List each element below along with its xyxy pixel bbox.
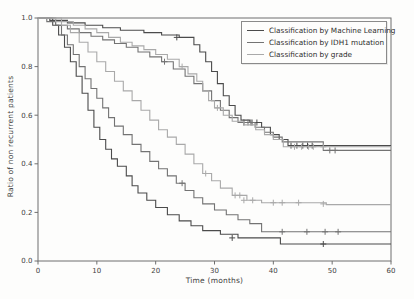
series-grade-upper-censor-mark (214, 105, 220, 111)
x-tick-label: 20 (151, 267, 160, 275)
x-tick-label: 10 (92, 267, 101, 275)
series-idh1-lower-censor-mark (335, 229, 341, 235)
x-axis-label: Time (months) (38, 276, 391, 285)
legend-label: Classification by Machine Learning (269, 26, 395, 35)
y-tick-label: 0.6 (21, 112, 33, 120)
x-tick-label: 50 (328, 267, 337, 275)
legend-item-grade: Classification by grade (247, 50, 380, 59)
series-idh1-upper-censor-mark (162, 59, 168, 65)
series-grade-lower-censor-mark (203, 171, 209, 177)
series-idh1-lower-censor-mark (304, 229, 310, 235)
x-tick-label: 30 (210, 267, 219, 275)
y-tick-label: 0.4 (21, 160, 33, 168)
y-tick-label: 0.0 (21, 257, 32, 265)
km-survival-figure: 01020304050600.00.20.40.60.81.0 Ratio of… (0, 0, 414, 299)
legend-line-swatch (247, 54, 264, 55)
series-idh1-lower-censor-mark (279, 229, 285, 235)
legend-label: Classification by IDH1 mutation (269, 38, 384, 47)
series-idh1-upper-censor-mark (332, 147, 338, 153)
x-tick-label: 60 (387, 267, 396, 275)
series-idh1-lower-censor-mark (322, 229, 328, 235)
series-idh1-upper-censor-mark (327, 147, 333, 153)
y-tick-label: 0.2 (21, 209, 32, 217)
legend-item-idh1-mutation: Classification by IDH1 mutation (247, 38, 380, 47)
series-grade-upper-censor-mark (320, 144, 326, 150)
series-machine-learning-lower-censor-mark (320, 241, 326, 247)
series-machine-learning-lower-censor-mark (229, 235, 235, 241)
series-grade-lower-censor-mark (320, 201, 326, 207)
series-machine-learning-upper-censor-mark (309, 143, 315, 149)
series-grade-lower-censor-mark (237, 192, 243, 198)
series-grade-lower-censor-mark (270, 200, 276, 206)
y-tick-label: 0.8 (21, 63, 32, 71)
legend-label: Classification by grade (269, 50, 352, 59)
x-tick-label: 0 (36, 267, 40, 275)
series-idh1-lower-censor-mark (179, 180, 185, 186)
legend-item-machine-learning: Classification by Machine Learning (247, 26, 380, 35)
legend-line-swatch (247, 42, 264, 43)
series-grade-upper-censor-mark (310, 144, 316, 150)
y-tick-label: 1.0 (21, 14, 32, 22)
series-grade-upper-censor-mark (299, 144, 305, 150)
y-axis-label: Ratio of non recurrent patients (6, 17, 15, 257)
legend: Classification by Machine Learning Class… (241, 21, 387, 64)
legend-line-swatch (247, 30, 264, 31)
series-grade-lower-censor-mark (296, 200, 302, 206)
series-grade-lower-censor-mark (279, 200, 285, 206)
series-machine-learning-upper-censor-mark (288, 143, 294, 149)
series-grade-lower-censor-mark (241, 197, 247, 203)
series-grade-lower-censor-mark (250, 197, 256, 203)
x-tick-label: 40 (269, 267, 278, 275)
